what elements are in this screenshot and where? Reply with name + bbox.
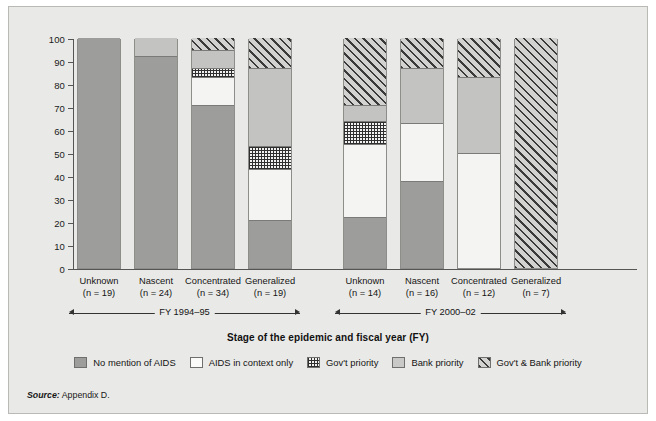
legend-swatch-none-icon [74,357,87,368]
y-tick-50 [68,154,73,155]
segment-none [135,56,177,268]
bar-concentrated-fy2000[interactable] [457,39,501,269]
segment-context [458,153,500,268]
bar-nascent-fy1994[interactable] [134,39,178,269]
segment-bank [192,50,234,68]
fy-bracket-arrow-right [561,309,566,315]
legend-item-both: Gov't & Bank priority [478,357,582,368]
legend-item-context: AIDS in context only [190,357,293,368]
bar-generalized-fy2000[interactable] [514,39,558,269]
x-label-count: (n = 7) [499,287,573,299]
legend-label: Gov't & Bank priority [497,357,582,368]
chart-legend: No mention of AIDSAIDS in context onlyGo… [9,357,647,368]
x-label-name: Generalized [499,275,573,287]
legend-item-none: No mention of AIDS [74,357,175,368]
plot-area [77,39,637,269]
fy-bracket-arrow-left [69,309,74,315]
y-tick-0 [68,269,73,270]
legend-label: No mention of AIDS [93,357,175,368]
segment-both [401,38,443,68]
segment-bank [458,77,500,153]
x-axis-title: Stage of the epidemic and fiscal year (F… [9,332,647,343]
y-tick-label-50: 50 [43,149,65,160]
legend-swatch-context-icon [190,357,203,368]
fy-bracket-arrow-left [335,309,340,315]
legend-label: AIDS in context only [209,357,293,368]
source-value: Appendix D. [62,390,110,400]
figure-panel: Percent of countries 1009080706050403020… [8,6,648,414]
y-tick-100 [68,39,73,40]
legend-swatch-gov-icon [307,357,320,368]
source-note: Source: Appendix D. [27,390,110,400]
legend-label: Bank priority [411,357,463,368]
segment-both [249,38,291,68]
y-tick-90 [68,62,73,63]
bar-unknown-fy1994[interactable] [77,39,121,269]
segment-gov [344,121,386,144]
segment-context [192,77,234,105]
y-tick-label-100: 100 [43,34,65,45]
fy-bracket-arrow-right [295,309,300,315]
segment-bank [401,68,443,123]
y-tick-label-40: 40 [43,172,65,183]
x-label-generalized-fy1994: Generalized(n = 19) [233,275,307,299]
y-tick-label-0: 0 [43,264,65,275]
bar-concentrated-fy1994[interactable] [191,39,235,269]
y-axis-line [73,39,74,269]
legend-label: Gov't priority [326,357,378,368]
segment-bank [249,68,291,146]
segment-both [344,38,386,105]
source-label: Source: [27,390,60,400]
y-tick-70 [68,108,73,109]
x-axis-line [73,269,637,270]
segment-both [192,38,234,50]
y-tick-label-10: 10 [43,241,65,252]
segment-none [78,38,120,268]
segment-gov [249,146,291,169]
segment-none [192,105,234,268]
y-tick-label-70: 70 [43,103,65,114]
fy-bracket-label: FY 1994–95 [154,307,215,317]
segment-context [249,169,291,220]
x-label-generalized-fy2000: Generalized(n = 7) [499,275,573,299]
y-tick-60 [68,131,73,132]
x-label-name: Generalized [233,275,307,287]
fy-bracket-1: FY 1994–95 [69,307,300,321]
y-tick-label-90: 90 [43,57,65,68]
segment-context [344,144,386,218]
y-tick-label-20: 20 [43,218,65,229]
legend-swatch-both-icon [478,357,491,368]
segment-both [515,38,557,268]
bar-nascent-fy2000[interactable] [400,39,444,269]
bar-generalized-fy1994[interactable] [248,39,292,269]
y-tick-80 [68,85,73,86]
segment-gov [192,68,234,77]
segment-bank [135,38,177,56]
segment-none [249,220,291,268]
segment-none [344,217,386,268]
segment-none [401,181,443,268]
x-label-count: (n = 19) [233,287,307,299]
y-tick-40 [68,177,73,178]
y-tick-label-80: 80 [43,80,65,91]
legend-item-bank: Bank priority [392,357,463,368]
y-tick-20 [68,223,73,224]
y-tick-label-60: 60 [43,126,65,137]
y-tick-10 [68,246,73,247]
fy-bracket-label: FY 2000–02 [420,307,481,317]
segment-both [458,38,500,77]
fy-bracket-2: FY 2000–02 [335,307,566,321]
bar-unknown-fy2000[interactable] [343,39,387,269]
legend-swatch-bank-icon [392,357,405,368]
segment-context [401,123,443,181]
legend-item-gov: Gov't priority [307,357,378,368]
y-tick-label-30: 30 [43,195,65,206]
segment-bank [344,105,386,121]
y-tick-30 [68,200,73,201]
